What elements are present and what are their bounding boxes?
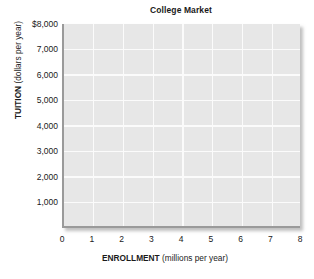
x-tick-label: 0 bbox=[50, 234, 74, 245]
x-axis-title-unit: (millions per year) bbox=[162, 253, 228, 263]
horizontal-gridline bbox=[64, 74, 300, 75]
y-tick-label: 1,000 bbox=[12, 198, 58, 207]
x-tick-label: 1 bbox=[80, 234, 104, 245]
x-axis-ticks: 012345678 bbox=[0, 234, 314, 248]
x-axis-title-bold: ENROLLMENT bbox=[102, 253, 160, 263]
horizontal-gridline bbox=[64, 100, 300, 101]
horizontal-gridline bbox=[64, 202, 300, 203]
x-tick-label: 5 bbox=[199, 234, 223, 245]
plot-area bbox=[62, 24, 300, 228]
horizontal-gridline bbox=[64, 125, 300, 126]
x-axis-title: ENROLLMENT (millions per year) bbox=[40, 253, 290, 264]
x-tick-label: 3 bbox=[139, 234, 163, 245]
horizontal-gridline bbox=[64, 49, 300, 50]
x-tick-label: 6 bbox=[229, 234, 253, 245]
x-tick-label: 7 bbox=[258, 234, 282, 245]
x-tick-label: 4 bbox=[169, 234, 193, 245]
chart-figure: College Market 1,0002,0003,0004,0005,000… bbox=[0, 0, 314, 279]
y-axis-title-bold: TUITION bbox=[13, 86, 23, 119]
y-axis-title-unit: (dollars per year) bbox=[13, 21, 23, 84]
x-tick-label: 2 bbox=[110, 234, 134, 245]
horizontal-gridline bbox=[64, 151, 300, 152]
y-axis-title: TUITION (dollars per year) bbox=[11, 0, 25, 150]
horizontal-gridline bbox=[64, 176, 300, 177]
y-tick-label: 2,000 bbox=[12, 173, 58, 182]
x-tick-label: 8 bbox=[288, 234, 312, 245]
gridlines bbox=[64, 24, 300, 226]
chart-title: College Market bbox=[62, 5, 300, 16]
